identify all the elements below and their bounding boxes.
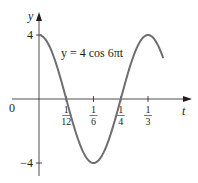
x-tick: 13 [144, 96, 152, 127]
y-tick-label: 4 [27, 28, 33, 42]
x-axis-arrow-icon [183, 96, 192, 102]
x-tick: 16 [90, 96, 98, 127]
x-tick-denominator: 12 [61, 116, 71, 127]
y-axis-arrow-icon [36, 12, 42, 21]
x-tick-denominator: 4 [118, 116, 123, 127]
equation-label: y = 4 cos 6πt [61, 46, 124, 60]
y-axis-label: y [27, 9, 34, 23]
x-axis-label: t [182, 104, 186, 118]
chart: 1121614134−4 y t 0 y = 4 cos 6πt [0, 0, 198, 183]
x-tick-denominator: 6 [91, 116, 96, 127]
x-tick-denominator: 3 [145, 116, 150, 127]
x-tick-numerator: 1 [91, 104, 96, 115]
x-tick-numerator: 1 [145, 104, 150, 115]
origin-label: 0 [9, 101, 15, 115]
y-axis [36, 12, 42, 176]
y-tick-label: −4 [20, 156, 33, 170]
axis-labels: y t 0 y = 4 cos 6πt [9, 9, 186, 118]
